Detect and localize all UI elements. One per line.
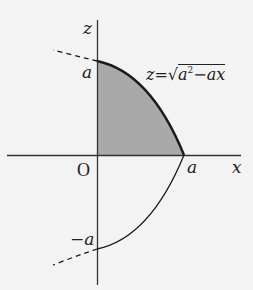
x-tick-a-label: a <box>187 159 197 176</box>
z-axis-label: z <box>83 20 92 37</box>
sqrt-sign: √ <box>168 65 178 84</box>
equation-radicand: a2−ax <box>178 64 225 83</box>
curve-dashed-lower <box>53 249 97 265</box>
radicand-rest: −ax <box>193 65 225 84</box>
z-tick-neg-a-label: −a <box>70 231 94 248</box>
curve-lower <box>97 155 184 249</box>
x-axis-label: x <box>232 159 242 176</box>
diagram-graphics <box>0 0 253 290</box>
z-tick-a-label: a <box>82 64 92 81</box>
curve-equation: z=√a2−ax <box>146 64 225 83</box>
equation-equals: = <box>154 65 167 84</box>
origin-label: O <box>77 161 90 179</box>
diagram-canvas: z a −a a x O z=√a2−ax <box>0 0 253 290</box>
radicand-a: a <box>178 65 188 84</box>
curve-dashed-upper <box>53 50 97 61</box>
